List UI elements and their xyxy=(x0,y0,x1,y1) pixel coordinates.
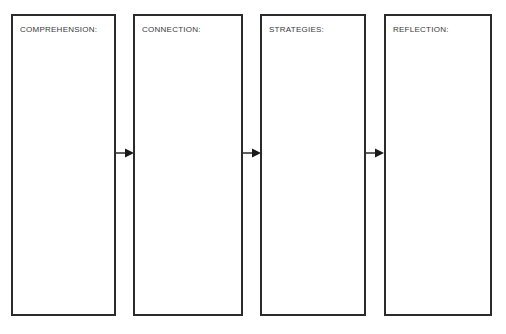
diagram-canvas: COMPREHENSION: CONNECTION: STRATEGIES: R… xyxy=(0,0,506,334)
arrow-right-icon-2 xyxy=(243,146,261,160)
stage-label-reflection: REFLECTION: xyxy=(393,25,449,34)
stage-box-strategies[interactable]: STRATEGIES: xyxy=(260,14,366,316)
arrow-right-icon-3 xyxy=(366,146,384,160)
stage-label-connection: CONNECTION: xyxy=(142,25,201,34)
stage-label-comprehension: COMPREHENSION: xyxy=(20,25,97,34)
stage-box-connection[interactable]: CONNECTION: xyxy=(133,14,243,316)
stage-box-comprehension[interactable]: COMPREHENSION: xyxy=(11,14,116,316)
stage-box-reflection[interactable]: REFLECTION: xyxy=(384,14,492,316)
arrow-right-icon-1 xyxy=(116,146,134,160)
stage-label-strategies: STRATEGIES: xyxy=(269,25,324,34)
